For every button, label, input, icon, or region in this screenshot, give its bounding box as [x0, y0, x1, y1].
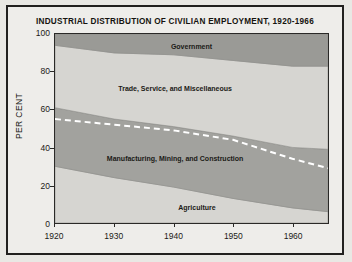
y-tick-label: 80 [41, 66, 50, 76]
y-tick-label: 40 [41, 143, 50, 153]
x-tick-mark [54, 224, 55, 227]
x-tick-label: 1960 [284, 231, 303, 241]
y-tick-label: 100 [36, 28, 50, 38]
stacked-area-svg [55, 34, 328, 223]
y-axis-tick-labels: 020406080100 [8, 33, 50, 224]
band-label-2: Trade, Service, and Miscellaneous [118, 85, 232, 92]
x-tick-label: 1920 [45, 231, 64, 241]
y-tick-label: 60 [41, 104, 50, 114]
band-label-3: Government [171, 43, 212, 50]
x-tick-mark [114, 224, 115, 227]
x-tick-mark [293, 224, 294, 227]
area-bands [55, 34, 328, 223]
chart-figure: INDUSTRIAL DISTRIBUTION OF CIVILIAN EMPL… [6, 5, 344, 255]
band-label-1: Manufacturing, Mining, and Construction [107, 155, 244, 162]
plot-area: AgricultureManufacturing, Mining, and Co… [54, 33, 329, 224]
x-axis-tick-labels: 19201930194019501960 [54, 227, 329, 245]
y-tick-label: 20 [41, 181, 50, 191]
chart-title: INDUSTRIAL DISTRIBUTION OF CIVILIAN EMPL… [8, 17, 342, 26]
x-tick-label: 1930 [104, 231, 123, 241]
x-tick-mark [174, 224, 175, 227]
band-label-0: Agriculture [178, 204, 215, 211]
x-tick-label: 1940 [164, 231, 183, 241]
x-tick-mark [233, 224, 234, 227]
y-tick-label: 0 [45, 219, 50, 229]
x-tick-label: 1950 [224, 231, 243, 241]
